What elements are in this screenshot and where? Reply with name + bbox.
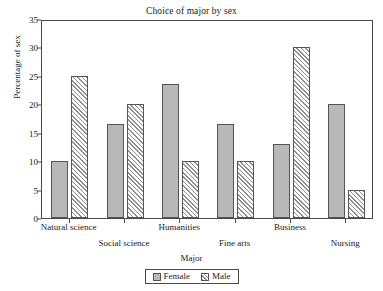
bar-male-fine-arts bbox=[237, 161, 254, 218]
legend-swatch-male-icon bbox=[201, 273, 209, 281]
bar-male-humanities bbox=[182, 161, 199, 218]
y-axis-tick-label: 30 bbox=[0, 44, 38, 53]
legend-entry-female: Female bbox=[153, 272, 191, 281]
y-axis-tick-label: 25 bbox=[0, 72, 38, 81]
y-axis-tick-label: 5 bbox=[0, 186, 38, 195]
x-axis-tick-mark bbox=[124, 219, 125, 223]
legend-label: Female bbox=[164, 272, 191, 281]
chart-title: Choice of major by sex bbox=[0, 6, 383, 16]
y-axis-tick-label: 10 bbox=[0, 158, 38, 167]
plot-area bbox=[41, 20, 373, 219]
legend-label: Male bbox=[212, 272, 231, 281]
x-axis-category-label: Humanities bbox=[159, 222, 201, 232]
legend-entry-male: Male bbox=[201, 272, 231, 281]
bar-female-nursing bbox=[328, 104, 345, 218]
bars-layer bbox=[42, 21, 372, 218]
chart-legend: FemaleMale bbox=[145, 269, 239, 284]
bar-chart: Choice of major by sex Percentage of sex… bbox=[0, 0, 383, 291]
x-axis-tick-mark bbox=[235, 219, 236, 223]
y-axis-tick-label: 15 bbox=[0, 129, 38, 138]
bar-female-natural-science bbox=[51, 161, 68, 218]
x-axis-category-label: Business bbox=[274, 222, 306, 232]
bar-male-nursing bbox=[348, 190, 365, 218]
x-axis-category-label: Natural science bbox=[41, 222, 97, 232]
y-axis-tick-label: 35 bbox=[0, 16, 38, 25]
y-axis-tick-label: 20 bbox=[0, 101, 38, 110]
bar-female-business bbox=[273, 144, 290, 218]
bar-male-social-science bbox=[127, 104, 144, 218]
x-axis-category-label: Social science bbox=[98, 238, 149, 248]
bar-female-humanities bbox=[162, 84, 179, 218]
bar-female-fine-arts bbox=[217, 124, 234, 218]
bar-female-social-science bbox=[107, 124, 124, 218]
x-axis-tick-mark bbox=[345, 219, 346, 223]
x-axis-title: Major bbox=[0, 253, 383, 263]
bar-male-business bbox=[293, 47, 310, 218]
legend-swatch-female-icon bbox=[153, 273, 161, 281]
y-axis-tick-label: 0 bbox=[0, 215, 38, 224]
x-axis-category-label: Fine arts bbox=[219, 238, 250, 248]
bar-male-natural-science bbox=[71, 76, 88, 218]
x-axis-category-label: Nursing bbox=[331, 238, 360, 248]
